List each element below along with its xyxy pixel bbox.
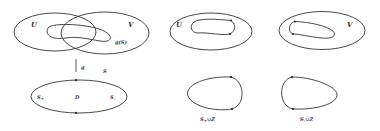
S-plus-dot-top [230, 76, 232, 78]
label-S-minus-union-Z: S-∪Z [300, 116, 313, 123]
label-gS: g(S) [115, 39, 127, 46]
image-gS-curve [47, 24, 110, 41]
left-panel: U V g(S) g S S+ D S- [14, 12, 149, 114]
label-U-2: U [176, 20, 183, 29]
label-S-minus: S- [110, 94, 116, 101]
label-S-plus-union-Z: S+∪Z [200, 116, 215, 123]
label-U: U [31, 20, 38, 29]
label-D: D [74, 94, 80, 100]
label-V: V [128, 20, 135, 29]
arc-endpoint-top [75, 79, 77, 81]
label-V-2: V [347, 20, 354, 29]
S-minus-dot-bottom [292, 108, 294, 110]
arc-endpoint-bottom [75, 112, 77, 114]
right-panel: V S-∪Z [279, 12, 365, 124]
inner-loop-V-dot-top [294, 21, 296, 23]
region-S-plus-union-Z [188, 77, 242, 110]
set-V-ellipse-2 [279, 12, 365, 50]
S-plus-dot-bottom [231, 108, 233, 110]
inner-loop-V [289, 22, 334, 39]
S-minus-dot-top [291, 76, 293, 78]
set-V-ellipse [61, 12, 149, 54]
set-U-ellipse [14, 13, 96, 51]
inner-loop-U-dot-top [230, 20, 232, 22]
region-S-minus-union-Z [282, 77, 337, 109]
inner-loop-U-dot-bottom [229, 33, 231, 35]
inner-loop-U [191, 19, 234, 34]
label-S-plus: S+ [37, 94, 44, 101]
set-U-ellipse-2 [170, 13, 252, 50]
topology-diagram: U V g(S) g S S+ D S- U S+∪Z V S-∪Z [0, 0, 380, 131]
label-S: S [103, 68, 107, 74]
inner-loop-V-dot-bottom [292, 33, 294, 35]
middle-panel: U S+∪Z [170, 13, 252, 123]
label-map-g: g [81, 64, 85, 71]
